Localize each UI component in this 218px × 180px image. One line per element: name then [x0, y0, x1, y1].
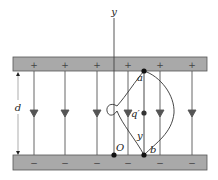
svg-text:−: −	[124, 158, 132, 168]
y-axis-label: y	[110, 6, 117, 17]
svg-text:−: −	[61, 158, 69, 168]
capacitor-diagram: + + + + + + − − − − − − d y	[0, 0, 218, 180]
svg-text:+: +	[188, 60, 196, 70]
point-origin	[111, 152, 116, 157]
svg-text:+: +	[93, 60, 101, 70]
svg-text:+: +	[156, 60, 164, 70]
label-a: a	[137, 72, 143, 83]
svg-text:+: +	[30, 60, 38, 70]
svg-text:−: −	[188, 158, 196, 168]
separation-marker: d	[13, 72, 23, 155]
svg-text:+: +	[124, 60, 132, 70]
svg-text:−: −	[93, 158, 101, 168]
top-plate	[13, 57, 207, 71]
charge-q-prime	[141, 110, 146, 115]
svg-text:+: +	[61, 60, 69, 70]
label-path-y: y	[136, 130, 143, 141]
point-b	[141, 152, 146, 157]
label-charge: q′	[131, 108, 140, 119]
label-b: b	[150, 144, 156, 155]
label-origin: O	[116, 142, 124, 153]
svg-text:−: −	[30, 158, 38, 168]
separation-label: d	[15, 102, 21, 113]
svg-text:−: −	[156, 158, 164, 168]
field-lines	[30, 71, 196, 155]
bottom-plate	[13, 155, 207, 170]
